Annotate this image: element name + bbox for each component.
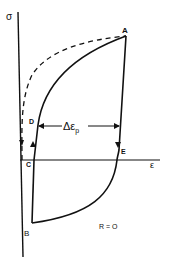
epsilon-label: ε: [150, 160, 154, 170]
sigma-axis: [18, 12, 23, 257]
loading-curve-c-d-a: [34, 36, 126, 160]
point-e-label: E: [121, 148, 126, 155]
plastic-strain-main: Δε: [63, 120, 75, 132]
sigma-label: σ: [6, 11, 13, 22]
hysteresis-diagram: σ ε A B C D E Δεp R = O: [0, 0, 169, 265]
point-d-label: D: [29, 118, 34, 125]
ratio-label: R = O: [99, 223, 118, 230]
point-a-label: A: [122, 26, 128, 35]
point-c-label: C: [26, 161, 31, 168]
dashed-down-arrow-icon: [19, 140, 24, 146]
compression-curve-e-b: [32, 160, 117, 223]
unloading-line-a-e: [117, 36, 126, 160]
plastic-strain-sub: p: [75, 127, 79, 135]
reloading-line-b-c: [32, 160, 34, 223]
dashed-initial-curve: [22, 36, 126, 160]
plastic-strain-label: Δεp: [63, 120, 79, 135]
point-b-label: B: [24, 229, 29, 238]
